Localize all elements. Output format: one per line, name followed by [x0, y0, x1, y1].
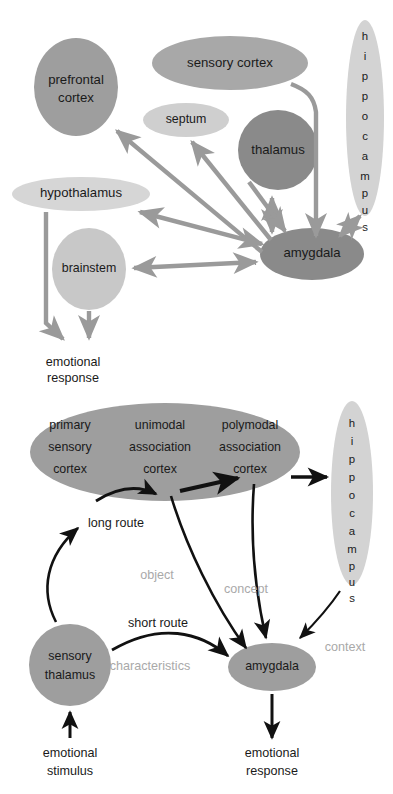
amygdala-label: amygdala	[283, 245, 341, 260]
svg-text:o: o	[362, 110, 368, 122]
cortex-col1-line3: cortex	[53, 462, 88, 476]
node-amygdala: amygdala	[260, 228, 364, 280]
emotional-response-line2: response	[47, 371, 99, 385]
svg-text:p: p	[362, 90, 368, 102]
svg-text:c: c	[362, 130, 368, 142]
sensory-thalamus-line1: sensory	[48, 649, 92, 663]
brainstem-label: brainstem	[62, 261, 116, 275]
svg-text:s: s	[349, 592, 355, 604]
svg-text:p: p	[349, 560, 355, 572]
svg-text:h: h	[349, 417, 355, 429]
cropped-header-text	[119, 0, 121, 8]
arrow-concept-to-amygdala	[253, 484, 267, 638]
node-cortex-block: primary sensory cortex unimodal associat…	[30, 403, 300, 501]
svg-text:i: i	[364, 50, 367, 62]
svg-text:p: p	[362, 187, 368, 199]
prefrontal-cortex-label-line2: cortex	[58, 90, 94, 105]
arrow-brainstem-amygdala	[134, 262, 256, 268]
cortex-col1-line1: primary	[49, 418, 91, 432]
svg-text:s: s	[362, 221, 368, 233]
emotional-response-lower-line2: response	[246, 764, 298, 778]
cortex-col3-line3: cortex	[233, 462, 268, 476]
node-sensory-thalamus: sensory thalamus	[29, 624, 111, 706]
svg-text:m: m	[347, 543, 357, 555]
context-label: context	[325, 640, 366, 654]
node-hippocampus: h i p p o c a m p u s	[346, 20, 384, 233]
amygdala-label-lower: amygdala	[245, 659, 299, 673]
thalamus-label: thalamus	[251, 142, 305, 157]
svg-text:a: a	[349, 525, 356, 537]
hypothalamus-label: hypothalamus	[40, 185, 123, 200]
sensory-thalamus-line2: thalamus	[45, 668, 95, 682]
svg-text:u: u	[362, 204, 368, 216]
node-prefrontal-cortex: prefrontal cortex	[34, 38, 118, 136]
arrow-thalamus-to-cortex	[47, 528, 78, 622]
figure-root: prefrontal cortex sensory cortex septum …	[0, 0, 393, 794]
svg-text:p: p	[349, 453, 355, 465]
cortex-col2-line3: cortex	[143, 462, 178, 476]
svg-text:a: a	[362, 150, 369, 162]
emotional-stimulus-line1: emotional	[43, 746, 98, 760]
svg-text:p: p	[362, 70, 368, 82]
svg-text:h: h	[362, 30, 368, 42]
limbic-circuit-diagram: prefrontal cortex sensory cortex septum …	[0, 0, 393, 386]
short-route-label: short route	[128, 616, 188, 630]
emotional-response-lower-line1: emotional	[245, 746, 300, 760]
emotional-stimulus-line2: stimulus	[47, 764, 93, 778]
long-route-label: long route	[88, 516, 144, 530]
output-emotional-response-lower: emotional response	[245, 746, 300, 778]
node-thalamus: thalamus	[238, 110, 318, 190]
concept-label: concept	[224, 582, 269, 596]
septum-label: septum	[166, 112, 207, 126]
cortex-col1-line2: sensory	[48, 440, 92, 454]
arrow-context-to-amygdala	[300, 591, 340, 638]
input-emotional-stimulus: emotional stimulus	[43, 746, 98, 778]
cortex-col2-line1: unimodal	[135, 418, 185, 432]
prefrontal-cortex-label-line1: prefrontal	[48, 72, 104, 87]
node-sensory-cortex: sensory cortex	[152, 36, 308, 90]
svg-text:c: c	[349, 507, 355, 519]
emotional-response-line1: emotional	[46, 355, 101, 369]
node-hippocampus-lower: h i p p o c a m p u s	[331, 401, 373, 604]
object-label: object	[140, 568, 174, 582]
node-hypothalamus: hypothalamus	[12, 177, 150, 211]
cortex-col3-line2: association	[219, 440, 281, 454]
sensory-cortex-label: sensory cortex	[187, 55, 273, 70]
output-emotional-response-top: emotional response	[46, 355, 101, 385]
cortex-col2-line2: association	[129, 440, 191, 454]
svg-text:u: u	[349, 576, 355, 588]
svg-text:m: m	[360, 170, 370, 182]
node-brainstem: brainstem	[52, 228, 126, 310]
node-amygdala-lower: amygdala	[228, 643, 316, 691]
characteristics-label: characteristics	[110, 659, 190, 673]
dual-route-diagram: primary sensory cortex unimodal associat…	[0, 386, 393, 794]
node-septum: septum	[143, 103, 229, 137]
svg-text:i: i	[351, 435, 354, 447]
svg-text:o: o	[349, 489, 355, 501]
arrow-amygdala-hippocampus	[340, 216, 360, 236]
arrow-hypothalamus-amygdala	[140, 212, 262, 244]
svg-text:p: p	[349, 471, 355, 483]
cortex-col3-line1: polymodal	[222, 418, 278, 432]
arrow-short-route-to-amygdala	[112, 633, 228, 656]
